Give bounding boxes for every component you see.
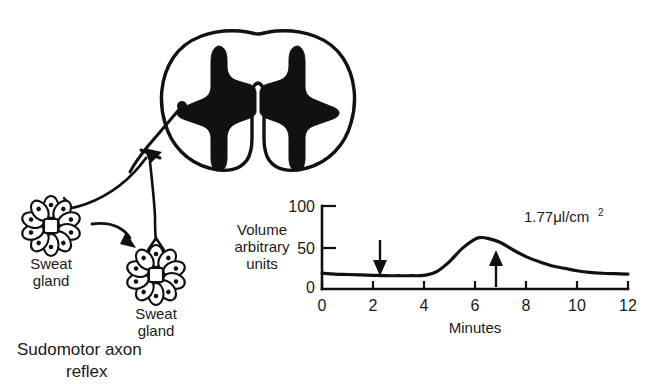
x-axis-label: Minutes (449, 319, 502, 336)
gland-lumen-right (149, 268, 163, 282)
x-ticklabel-4: 4 (420, 297, 429, 314)
x-ticklabel-8: 8 (522, 297, 531, 314)
sweat-gland-right-label-line1: Sweat (135, 305, 178, 322)
y-axis-label-line1: Volume (237, 221, 287, 238)
x-ticklabel-12: 12 (619, 297, 637, 314)
x-ticklabel-6: 6 (471, 297, 480, 314)
axon-origin-dot (177, 101, 187, 111)
x-ticklabel-2: 2 (369, 297, 378, 314)
x-ticklabel-0: 0 (318, 297, 327, 314)
y-ticklabel-0: 0 (306, 279, 315, 296)
y-ticklabel-50: 50 (297, 240, 315, 257)
figure-caption-line2: reflex (66, 362, 108, 381)
sweat-gland-right-label-line2: gland (138, 322, 175, 339)
gland-lumen-left (44, 219, 58, 233)
y-ticklabel-100: 100 (288, 198, 315, 215)
y-axis-label-line3: units (246, 255, 278, 272)
x-ticklabel-10: 10 (568, 297, 586, 314)
figure-caption-line1: Sudomotor axon (17, 340, 142, 359)
volume-annotation-superscript: 2 (598, 207, 604, 218)
y-axis-label-line2: arbitrary (234, 238, 290, 255)
volume-annotation-text: 1.77μl/cm (524, 208, 589, 225)
sweat-gland-left-label-line2: gland (33, 272, 70, 289)
sweat-gland-left-label-line1: Sweat (30, 255, 73, 272)
sudomotor-axon-reflex-figure: Sweat gland Sweat gland Sudomotor axon r… (0, 0, 648, 384)
